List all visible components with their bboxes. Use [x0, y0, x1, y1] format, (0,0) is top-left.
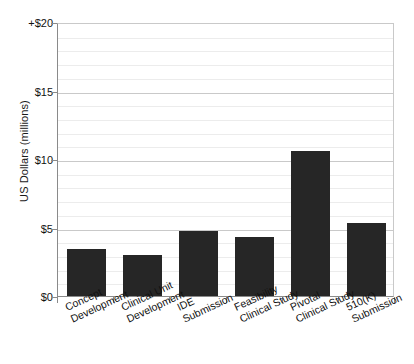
- y-tick-label: $15: [0, 86, 53, 98]
- y-tick-label: $0: [0, 291, 53, 303]
- gridline-minor: [58, 120, 393, 121]
- gridline-minor: [58, 38, 393, 39]
- gridline-minor: [58, 243, 393, 244]
- gridline-minor: [58, 106, 393, 107]
- gridline-major: [58, 230, 393, 231]
- y-tick-label: +$20: [0, 17, 53, 29]
- x-tick-mark: [57, 297, 58, 303]
- gridline-minor: [58, 79, 393, 80]
- y-tick-mark: [51, 23, 57, 24]
- gridline-minor: [58, 51, 393, 52]
- gridline-major: [58, 93, 393, 94]
- y-tick-mark: [51, 160, 57, 161]
- y-axis-title: US Dollars (millions): [18, 56, 30, 246]
- gridline-minor: [58, 134, 393, 135]
- y-tick-mark: [51, 229, 57, 230]
- gridline-minor: [58, 216, 393, 217]
- bar-chart-figure: US Dollars (millions) +$20$15$10$5$0Conc…: [0, 0, 414, 364]
- gridline-minor: [58, 147, 393, 148]
- gridline-minor: [58, 188, 393, 189]
- gridline-major: [58, 161, 393, 162]
- y-tick-mark: [51, 92, 57, 93]
- gridline-minor: [58, 175, 393, 176]
- gridline-minor: [58, 65, 393, 66]
- gridline-minor: [58, 202, 393, 203]
- y-tick-label: $5: [0, 223, 53, 235]
- y-tick-label: $10: [0, 154, 53, 166]
